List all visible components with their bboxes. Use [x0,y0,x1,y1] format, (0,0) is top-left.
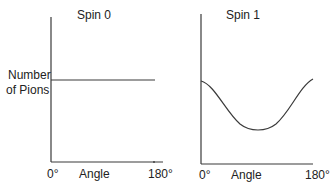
spin1-chart [201,14,313,164]
spin1-title: Spin 1 [226,9,260,22]
spin0-x-end-label: 180° [148,168,173,181]
spin0-x-axis-end-mark [153,161,155,163]
spin0-ylabel-line1: Number [8,69,51,82]
spin0-title: Spin 0 [77,9,111,22]
spin1-curve [201,79,313,130]
spin1-x-end-label: 180° [305,169,330,182]
spin1-x-start-label: 0° [199,169,210,182]
spin0-x-start-label: 0° [47,168,58,181]
spin0-ylabel-line2: of Pions [6,84,49,97]
spin0-chart [51,17,163,163]
spin1-xlabel: Angle [231,169,262,182]
spin0-xlabel: Angle [79,168,110,181]
